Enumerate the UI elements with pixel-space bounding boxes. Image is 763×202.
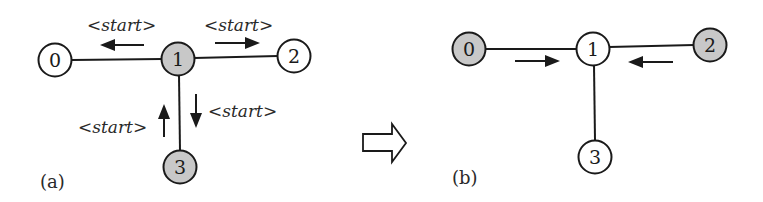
arrow-right-icon (515, 55, 560, 67)
node-label: 0 (463, 38, 475, 60)
hollow-right-arrow-icon (363, 124, 406, 162)
panel-label-a: (a) (40, 171, 65, 192)
arrow-right-icon (215, 37, 260, 49)
panel-b: 0 1 2 3 (b) (452, 29, 727, 189)
arrow-down-icon (190, 94, 202, 128)
node-label: 2 (288, 45, 300, 67)
panel-label-b: (b) (452, 167, 478, 188)
arrow-up-icon (158, 104, 170, 137)
node-2-b: 2 (694, 29, 727, 62)
node-1-a: 1 (162, 43, 195, 76)
node-3-a: 3 (164, 151, 197, 184)
edge-1-2-b (609, 45, 694, 47)
node-label: 1 (587, 38, 599, 60)
node-3-b: 3 (579, 141, 612, 174)
node-1-b: 1 (577, 33, 610, 66)
node-label: 3 (589, 146, 601, 168)
node-0-a: 0 (39, 44, 72, 77)
message-label-left: <start> (87, 15, 156, 35)
edge-1-3-b (594, 65, 595, 140)
node-label: 1 (172, 48, 184, 70)
node-label: 3 (174, 156, 186, 178)
node-0-b: 0 (453, 33, 486, 66)
arrow-left-icon (100, 39, 144, 51)
node-label: 0 (49, 49, 61, 71)
distributed-algorithm-diagram: <start> <start> <start> <start> 0 1 2 3 … (0, 0, 763, 202)
edge-1-2-a (194, 56, 278, 58)
node-2-a: 2 (278, 40, 311, 73)
edge-1-3-a (179, 75, 180, 151)
message-label-right: <start> (204, 15, 273, 35)
panel-a: <start> <start> <start> <start> 0 1 2 3 … (39, 15, 311, 192)
node-label: 2 (704, 34, 716, 56)
arrow-left-icon (628, 56, 673, 68)
edge-0-1-a (72, 59, 162, 60)
message-label-up: <start> (78, 117, 147, 137)
message-label-down: <start> (208, 101, 277, 121)
